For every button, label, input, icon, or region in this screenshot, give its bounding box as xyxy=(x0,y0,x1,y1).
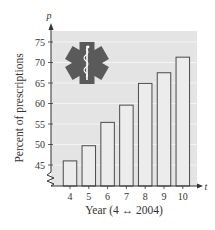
bar xyxy=(82,146,96,186)
x-axis-variable: t xyxy=(205,181,208,192)
y-axis-arrow-icon xyxy=(49,23,54,30)
y-tick-label: 75 xyxy=(35,37,45,48)
x-tick-label: 8 xyxy=(143,191,148,202)
bar-chart: 45505560657075 45678910 p t Percent of p… xyxy=(0,0,215,230)
y-tick-label: 50 xyxy=(35,139,45,150)
bar xyxy=(138,83,152,186)
y-axis-variable: p xyxy=(46,10,52,21)
y-tick-label: 60 xyxy=(35,98,45,109)
x-tick-label: 5 xyxy=(86,191,91,202)
bar xyxy=(120,105,133,186)
x-tick-label: 7 xyxy=(124,191,129,202)
x-tick-label: 4 xyxy=(68,191,73,202)
bar xyxy=(157,73,171,186)
x-axis-label: Year (4 ↔ 2004) xyxy=(85,204,163,217)
x-tick-label: 10 xyxy=(178,191,188,202)
x-tick-label: 9 xyxy=(162,191,167,202)
bar xyxy=(63,161,77,186)
y-tick-label: 45 xyxy=(35,160,45,171)
y-tick-label: 65 xyxy=(35,78,45,89)
x-tick-label: 6 xyxy=(105,191,110,202)
y-tick-labels: 45505560657075 xyxy=(35,37,53,171)
bar xyxy=(176,57,190,186)
x-tick-labels: 45678910 xyxy=(68,186,188,202)
x-axis-arrow-icon xyxy=(197,184,203,189)
y-tick-label: 55 xyxy=(35,119,45,130)
bar xyxy=(101,122,115,186)
y-axis-label: Percent of prescriptions xyxy=(13,53,26,163)
y-tick-label: 70 xyxy=(35,57,45,68)
